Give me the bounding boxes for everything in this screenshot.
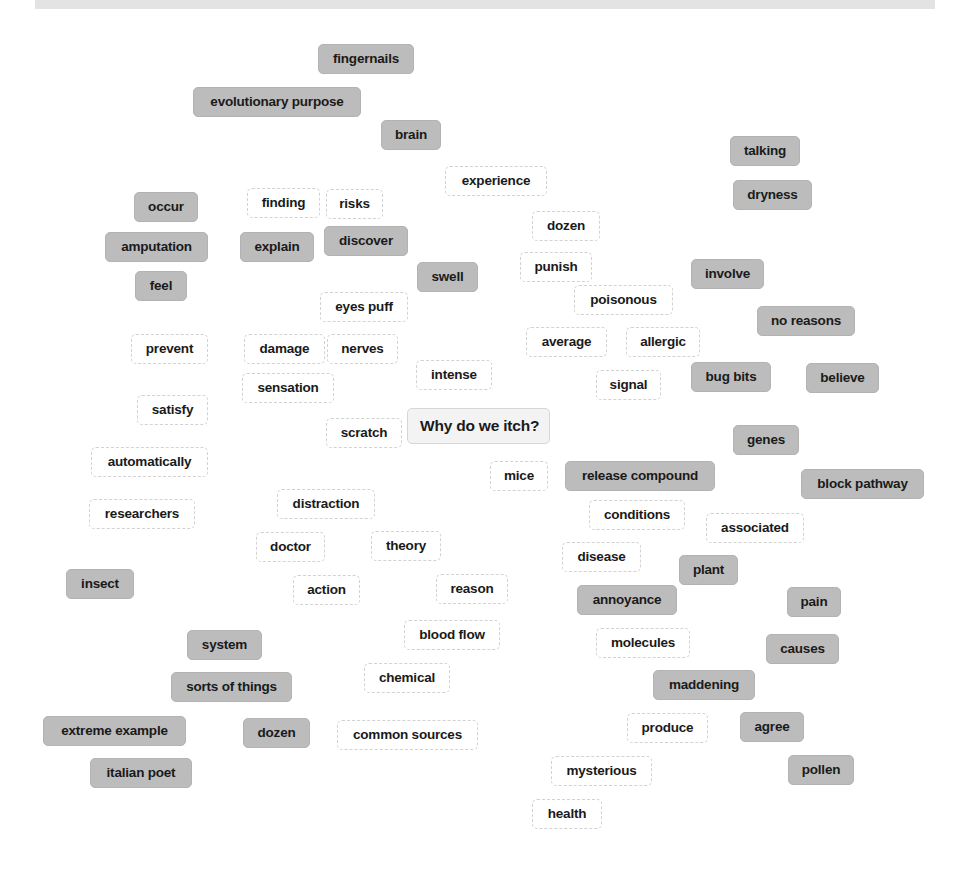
word-node-genes[interactable]: genes (733, 425, 799, 455)
word-node-annoyance[interactable]: annoyance (577, 585, 677, 615)
word-node-mysterious[interactable]: mysterious (551, 756, 652, 786)
word-node-bug-bits[interactable]: bug bits (691, 362, 771, 392)
word-node-damage[interactable]: damage (244, 334, 325, 364)
word-node-distraction[interactable]: distraction (277, 489, 375, 519)
word-node-poisonous[interactable]: poisonous (574, 285, 673, 315)
word-node-believe[interactable]: believe (806, 363, 879, 393)
word-node-discover[interactable]: discover (324, 226, 408, 256)
word-node-doctor[interactable]: doctor (256, 532, 325, 562)
word-node-researchers[interactable]: researchers (89, 499, 195, 529)
word-node-health[interactable]: health (532, 799, 602, 829)
word-node-agree[interactable]: agree (740, 712, 804, 742)
word-node-feel[interactable]: feel (135, 271, 187, 301)
word-node-pain[interactable]: pain (787, 587, 841, 617)
word-node-prevent[interactable]: prevent (131, 334, 208, 364)
word-node-extreme-example[interactable]: extreme example (43, 716, 186, 746)
word-node-sensation[interactable]: sensation (242, 373, 334, 403)
word-node-nerves[interactable]: nerves (327, 334, 398, 364)
word-node-sorts-of-things[interactable]: sorts of things (171, 672, 292, 702)
word-node-conditions[interactable]: conditions (589, 500, 685, 530)
word-node-molecules[interactable]: molecules (596, 628, 690, 658)
word-node-insect[interactable]: insect (66, 569, 134, 599)
word-node-amputation[interactable]: amputation (105, 232, 208, 262)
word-node-reason[interactable]: reason (436, 574, 508, 604)
word-node-common-sources[interactable]: common sources (337, 720, 478, 750)
word-node-scratch[interactable]: scratch (326, 418, 402, 448)
word-node-chemical[interactable]: chemical (364, 663, 450, 693)
word-node-dozen[interactable]: dozen (532, 211, 600, 241)
word-node-block-pathway[interactable]: block pathway (801, 469, 924, 499)
word-node-occur[interactable]: occur (134, 192, 198, 222)
word-node-brain[interactable]: brain (381, 120, 441, 150)
word-node-dryness[interactable]: dryness (733, 180, 812, 210)
word-node-allergic[interactable]: allergic (626, 327, 700, 357)
word-node-plant[interactable]: plant (679, 555, 738, 585)
word-node-satisfy[interactable]: satisfy (137, 395, 208, 425)
word-node-release-compound[interactable]: release compound (565, 461, 715, 491)
word-node-explain[interactable]: explain (240, 232, 314, 262)
word-node-finding[interactable]: finding (247, 188, 320, 218)
central-question-node[interactable]: Why do we itch? (407, 408, 550, 444)
word-node-talking[interactable]: talking (730, 136, 800, 166)
word-node-system[interactable]: system (187, 630, 262, 660)
word-node-risks[interactable]: risks (326, 189, 383, 219)
word-node-disease[interactable]: disease (562, 542, 641, 572)
word-node-produce[interactable]: produce (627, 713, 708, 743)
word-node-average[interactable]: average (526, 327, 607, 357)
word-node-theory[interactable]: theory (371, 531, 441, 561)
word-node-signal[interactable]: signal (596, 370, 661, 400)
word-node-mice[interactable]: mice (490, 461, 548, 491)
word-node-punish[interactable]: punish (520, 252, 592, 282)
word-node-causes[interactable]: causes (766, 634, 839, 664)
header-bar (35, 0, 935, 9)
word-node-eyes-puff[interactable]: eyes puff (320, 292, 408, 322)
word-node-involve[interactable]: involve (691, 259, 764, 289)
word-node-evolutionary-purpose[interactable]: evolutionary purpose (193, 87, 361, 117)
word-node-experience[interactable]: experience (445, 166, 547, 196)
word-node-italian-poet[interactable]: italian poet (90, 758, 192, 788)
word-node-pollen[interactable]: pollen (788, 755, 854, 785)
word-node-fingernails[interactable]: fingernails (318, 44, 414, 74)
word-node-swell[interactable]: swell (417, 262, 478, 292)
word-node-automatically[interactable]: automatically (91, 447, 208, 477)
word-node-maddening[interactable]: maddening (653, 670, 755, 700)
word-node-associated[interactable]: associated (706, 513, 804, 543)
word-node-intense[interactable]: intense (416, 360, 492, 390)
word-node-blood-flow[interactable]: blood flow (404, 620, 500, 650)
word-node-action[interactable]: action (293, 575, 360, 605)
word-node-no-reasons[interactable]: no reasons (757, 306, 855, 336)
word-node-dozen[interactable]: dozen (243, 718, 310, 748)
